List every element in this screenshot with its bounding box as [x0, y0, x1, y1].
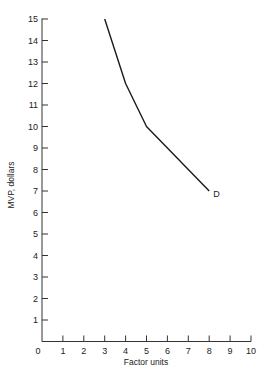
x-axis-title: Factor units: [124, 357, 168, 367]
x-tick-label: 10: [246, 346, 256, 356]
y-tick-label: 7: [33, 186, 38, 196]
y-tick-label: 5: [33, 229, 38, 239]
y-tick-label: 11: [29, 100, 38, 110]
y-tick-label: 1: [33, 315, 38, 325]
y-tick-label: 4: [33, 251, 38, 261]
y-tick-label: 13: [28, 57, 38, 67]
x-tick-label: 2: [81, 346, 86, 356]
y-tick-label: 14: [28, 36, 38, 46]
y-tick-label: 9: [33, 143, 38, 153]
y-tick-label: 12: [28, 79, 38, 89]
x-axis: 012345678910: [35, 336, 256, 356]
x-tick-label: 0: [35, 346, 40, 356]
y-tick-label: 2: [33, 294, 38, 304]
y-tick-label: 8: [33, 165, 38, 175]
mvp-curve-line: [105, 19, 210, 191]
series: D: [105, 19, 221, 199]
y-tick-label: 10: [28, 122, 38, 132]
y-tick-label: 15: [28, 14, 38, 24]
x-tick-label: 6: [165, 346, 170, 356]
x-tick-label: 1: [60, 346, 65, 356]
x-tick-label: 9: [228, 346, 233, 356]
y-axis: 123456789101112131415: [28, 14, 48, 342]
x-tick-label: 3: [102, 346, 107, 356]
x-tick-label: 7: [186, 346, 191, 356]
y-tick-label: 3: [33, 272, 38, 282]
curve-label-d: D: [213, 189, 220, 199]
mvp-chart: 123456789101112131415 012345678910 D Fac…: [0, 0, 267, 378]
y-tick-label: 6: [33, 208, 38, 218]
y-axis-title: MVP, dollars: [6, 161, 16, 208]
x-tick-label: 5: [144, 346, 149, 356]
x-tick-label: 8: [207, 346, 212, 356]
x-tick-label: 4: [123, 346, 128, 356]
